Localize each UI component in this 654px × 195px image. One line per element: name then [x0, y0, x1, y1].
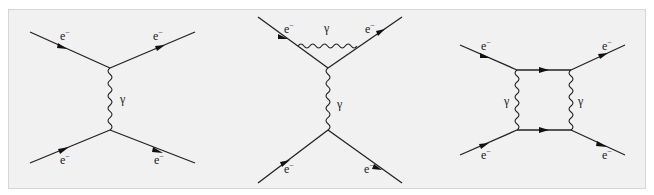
loop-photon — [298, 44, 357, 48]
label-e-out-top: e− — [365, 21, 375, 36]
label-e-out-top: e− — [153, 28, 163, 43]
electron-in-top — [30, 32, 110, 68]
label-photon: γ — [119, 92, 126, 106]
left-photon — [515, 70, 519, 130]
label-e-in-bottom: e− — [60, 152, 70, 167]
label-e-out-bottom: e− — [364, 161, 374, 176]
arrow-icon — [376, 29, 385, 36]
electron-out-top — [571, 45, 625, 70]
diagram-vertex-correction: e− e− γ γ e− e− — [258, 17, 402, 183]
label-exchange-photon: γ — [336, 97, 343, 111]
arrow-icon — [57, 43, 67, 49]
arrow-icon — [480, 53, 490, 58]
label-e-out-top: e− — [602, 38, 612, 53]
label-e-out-bottom: e− — [602, 147, 612, 162]
label-right-photon: γ — [577, 94, 584, 108]
electron-in-bottom — [30, 130, 110, 163]
arrow-icon — [598, 53, 608, 59]
diagram-tree-level: e− e− e− e− γ — [30, 28, 195, 167]
label-e-in-top: e− — [481, 38, 491, 53]
arrow-icon — [539, 67, 549, 73]
electron-in-bottom — [258, 130, 328, 183]
diagram-box: e− e− γ γ e− e− — [460, 38, 625, 162]
label-loop-photon: γ — [323, 21, 330, 35]
arrow-icon — [596, 141, 607, 147]
label-e-in-top: e− — [60, 28, 70, 43]
right-photon — [569, 70, 573, 130]
label-left-photon: γ — [503, 94, 510, 108]
photon-propagator — [108, 68, 112, 130]
label-e-out-bottom: e− — [154, 152, 164, 167]
electron-out-bottom — [110, 130, 195, 163]
label-e-in-bottom: e− — [481, 147, 491, 162]
label-e-in-top: e− — [284, 21, 294, 36]
arrow-icon — [155, 45, 165, 51]
arrow-icon — [539, 127, 549, 133]
photon-propagator — [326, 68, 330, 130]
label-e-in-bottom: e− — [284, 161, 294, 176]
feynman-diagrams: e− e− e− e− γ e− e− γ γ e− e− — [0, 0, 654, 195]
